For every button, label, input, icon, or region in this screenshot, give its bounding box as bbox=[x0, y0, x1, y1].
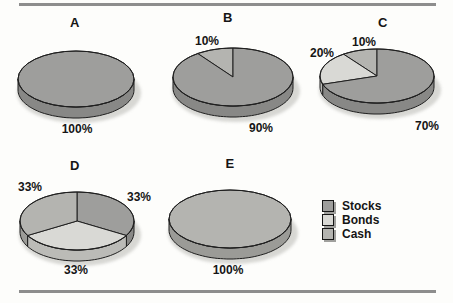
pct-label-d-cash: 33% bbox=[64, 263, 88, 277]
legend-swatch-bonds bbox=[322, 214, 334, 226]
legend-label: Cash bbox=[342, 228, 371, 240]
pie-charts-canvas bbox=[0, 0, 453, 303]
legend-label: Bonds bbox=[342, 214, 379, 226]
pct-label-c-cash: 10% bbox=[352, 35, 376, 49]
pie-title-b: B bbox=[223, 10, 233, 25]
pct-label-e-cash: 100% bbox=[213, 263, 244, 277]
pct-label-c-stocks: 70% bbox=[415, 119, 439, 133]
pct-label-c-bonds: 20% bbox=[310, 46, 334, 60]
legend-swatch-cash bbox=[322, 228, 334, 240]
pct-label-a-stocks: 100% bbox=[62, 122, 93, 136]
pct-label-d-stocks: 33% bbox=[18, 180, 42, 194]
pie-title-e: E bbox=[225, 156, 234, 171]
pie-title-a: A bbox=[70, 15, 80, 30]
legend-swatch-stocks bbox=[322, 200, 334, 212]
asset-allocation-figure: A100%B10%90%C10%20%70%D33%33%33%E100% St… bbox=[0, 0, 453, 303]
pie-title-c: C bbox=[378, 15, 388, 30]
legend-item-stocks: Stocks bbox=[322, 199, 381, 213]
pct-label-b-stocks: 90% bbox=[249, 121, 273, 135]
pct-label-b-cash: 10% bbox=[195, 34, 219, 48]
pie-title-d: D bbox=[70, 158, 80, 173]
legend-item-cash: Cash bbox=[322, 227, 381, 241]
bottom-rule bbox=[19, 290, 436, 293]
legend-label: Stocks bbox=[342, 200, 381, 212]
legend-item-bonds: Bonds bbox=[322, 213, 381, 227]
pct-label-d-bonds: 33% bbox=[127, 190, 151, 204]
legend: StocksBondsCash bbox=[322, 199, 381, 241]
